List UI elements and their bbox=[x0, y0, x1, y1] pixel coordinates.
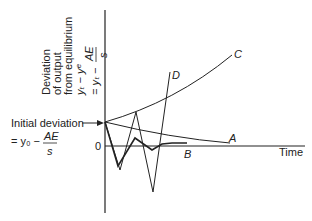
y-label-formula-2-prefix: = yₜ − bbox=[89, 67, 101, 95]
curve-c bbox=[105, 55, 232, 122]
curve-a bbox=[105, 122, 230, 143]
deviation-diagram: C D A B Time 0 Initial deviation = y₀ − … bbox=[0, 0, 312, 221]
curve-label-c: C bbox=[234, 48, 242, 60]
y-axis-label: Deviation of output from equilibrium yₜ … bbox=[40, 17, 109, 96]
y-label-formula-2-num: AE bbox=[83, 46, 95, 62]
initial-formula-num: AE bbox=[43, 130, 59, 142]
initial-deviation-label: Initial deviation bbox=[11, 117, 84, 129]
zero-label: 0 bbox=[95, 140, 101, 152]
curve-label-b: B bbox=[184, 148, 191, 160]
arrow-head-icon bbox=[97, 120, 104, 126]
curve-label-a: A bbox=[228, 132, 236, 144]
curve-label-d: D bbox=[172, 69, 180, 81]
y-label-line-3: from equilibrium bbox=[62, 17, 74, 95]
x-axis-label: Time bbox=[279, 146, 303, 158]
curve-d bbox=[105, 72, 170, 192]
initial-formula-prefix: = y₀ − bbox=[11, 135, 40, 147]
y-label-formula-2-den: s bbox=[97, 52, 109, 58]
y-label-formula-1: yₜ − yᵉ bbox=[74, 63, 86, 96]
initial-formula-den: s bbox=[47, 145, 53, 157]
